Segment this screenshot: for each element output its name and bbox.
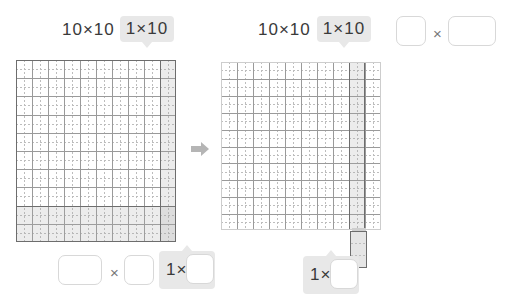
left-grid-highlight-column: [160, 60, 176, 242]
right-callout-prefix: 1×: [310, 265, 331, 285]
left-label-1x10-bubble: 1×10: [120, 16, 174, 42]
right-label-1x10-bubble: 1×10: [317, 16, 371, 42]
right-grid: [221, 62, 381, 230]
left-answer-box-2[interactable]: [124, 255, 154, 285]
arrow-right-icon: [190, 140, 210, 158]
right-label-answer-box-1[interactable]: [396, 16, 426, 46]
worksheet-canvas: 10×10 1×10: [0, 0, 516, 302]
right-label-answer-box-2[interactable]: [448, 16, 496, 46]
left-answer-box-1[interactable]: [58, 255, 102, 285]
right-grid-highlight-column: [349, 62, 365, 230]
right-label-1x10-text: 1×10: [323, 19, 365, 39]
left-callout-prefix: 1×: [166, 260, 187, 280]
right-callout-answer-box[interactable]: [330, 259, 358, 289]
left-label-10x10: 10×10: [62, 20, 115, 40]
right-label-operator: ×: [433, 26, 442, 41]
left-answer-operator: ×: [110, 265, 119, 280]
left-callout-answer-box[interactable]: [186, 254, 214, 284]
left-label-1x10-text: 1×10: [126, 19, 168, 39]
right-label-10x10: 10×10: [258, 20, 311, 40]
left-grid: [16, 60, 176, 242]
left-grid-bottom-band: [16, 206, 176, 242]
